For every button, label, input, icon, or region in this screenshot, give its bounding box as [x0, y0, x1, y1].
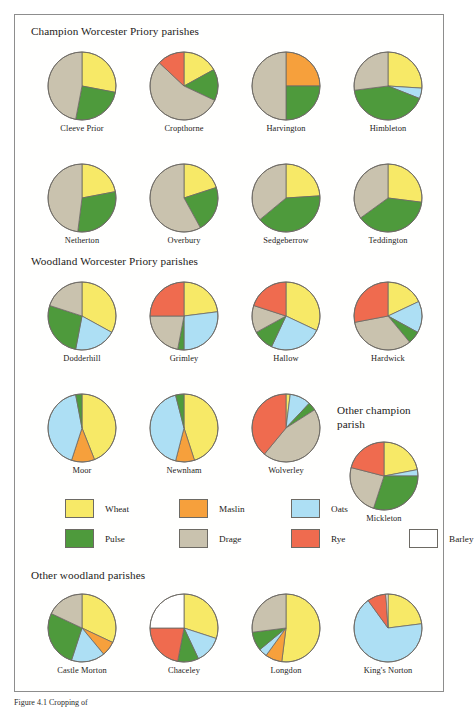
pie-cell-netherton: Netherton: [47, 163, 117, 245]
pie-chart: [251, 163, 321, 233]
pie-slice-wheat: [282, 594, 320, 662]
pie-label: Newnham: [149, 466, 219, 475]
legend-item-barley: Barley: [409, 529, 474, 548]
pie-label: Netherton: [47, 236, 117, 245]
other-champion-title-text: Other champion parish: [337, 404, 411, 430]
pie-chart: [47, 163, 117, 233]
pie-label: Moor: [47, 466, 117, 475]
legend-swatch-maslin: [179, 499, 208, 518]
pie-cell-castle-morton: Castle Morton: [47, 593, 117, 675]
pie-cell-sedgeberrow: Sedgeberrow: [251, 163, 321, 245]
pie-chart: [47, 51, 117, 121]
pie-chart: [353, 163, 423, 233]
pie-label: Chaceley: [149, 666, 219, 675]
pie-label: Overbury: [149, 236, 219, 245]
pie-chart: [149, 163, 219, 233]
section-heading-woodland-priory: Woodland Worcester Priory parishes: [31, 255, 198, 267]
pie-label: Cropthorne: [149, 124, 219, 133]
legend-label-barley: Barley: [449, 534, 474, 544]
pie-label: Cleeve Prior: [47, 124, 117, 133]
pie-cell-chaceley: Chaceley: [149, 593, 219, 675]
pie-label: Wolverley: [251, 466, 321, 475]
pie-slice-maslin: [286, 52, 320, 86]
pie-slice-drage: [252, 52, 286, 120]
pie-slice-drage: [48, 164, 82, 232]
pie-chart: [47, 393, 117, 463]
pie-chart: [251, 393, 321, 463]
pie-label: Himbleton: [353, 124, 423, 133]
pie-slice-wheat: [286, 164, 320, 198]
pie-cell-hardwick: Hardwick: [353, 281, 423, 363]
pie-label: Sedgeberrow: [251, 236, 321, 245]
pie-slice-wheat: [184, 282, 218, 316]
pie-cell-himbleton: Himbleton: [353, 51, 423, 133]
pie-label: Grimley: [149, 354, 219, 363]
legend-label-wheat: Wheat: [105, 504, 129, 514]
pie-slice-drage: [354, 52, 388, 90]
legend-item-maslin: Maslin: [179, 499, 245, 518]
pie-label: Teddington: [353, 236, 423, 245]
pie-slice-wheat: [388, 164, 422, 202]
pie-slice-pulse: [76, 86, 116, 120]
pie-label: Longdon: [251, 666, 321, 675]
legend-item-pulse: Pulse: [65, 529, 125, 548]
pie-slice-wheat: [388, 52, 422, 88]
pie-cell-cropthorne: Cropthorne: [149, 51, 219, 133]
legend-label-pulse: Pulse: [105, 534, 125, 544]
pie-chart: [149, 281, 219, 351]
section-heading-other-champion: Other champion parish: [337, 403, 437, 431]
pie-cell-newnham: Newnham: [149, 393, 219, 475]
pie-chart: [251, 281, 321, 351]
pie-cell-hallow: Hallow: [251, 281, 321, 363]
legend-swatch-barley: [409, 529, 438, 548]
figure-frame: Champion Worcester Priory parishes Woodl…: [14, 14, 444, 692]
pie-chart: [149, 593, 219, 663]
pie-slice-drage: [48, 52, 82, 119]
pie-cell-dodderhill: Dodderhill: [47, 281, 117, 363]
pie-slice-pulse: [78, 192, 116, 232]
pie-slice-oats: [184, 312, 218, 350]
pie-cell-overbury: Overbury: [149, 163, 219, 245]
pie-slice-rye: [150, 628, 184, 661]
pie-chart: [251, 51, 321, 121]
pie-cell-longdon: Longdon: [251, 593, 321, 675]
pie-chart: [353, 51, 423, 121]
pie-cell-teddington: Teddington: [353, 163, 423, 245]
pie-cell-moor: Moor: [47, 393, 117, 475]
legend-item-oats: Oats: [291, 499, 348, 518]
legend-item-wheat: Wheat: [65, 499, 129, 518]
pie-label: Hardwick: [353, 354, 423, 363]
pie-slice-pulse: [286, 86, 320, 120]
legend-item-rye: Rye: [291, 529, 345, 548]
pie-cell-king-s-norton: King's Norton: [353, 593, 423, 675]
pie-cell-harvington: Harvington: [251, 51, 321, 133]
pie-chart: [251, 593, 321, 663]
pie-label: Dodderhill: [47, 354, 117, 363]
pie-slice-rye: [354, 282, 388, 322]
pie-slice-drage: [252, 594, 286, 632]
legend-label-drage: Drage: [219, 534, 241, 544]
pie-cell-wolverley: Wolverley: [251, 393, 321, 475]
pie-chart: [353, 593, 423, 663]
pie-slice-barley: [150, 594, 184, 628]
legend-swatch-pulse: [65, 529, 94, 548]
legend-swatch-wheat: [65, 499, 94, 518]
pie-label: King's Norton: [353, 666, 423, 675]
pie-label: Castle Morton: [47, 666, 117, 675]
legend-label-rye: Rye: [331, 534, 345, 544]
legend-label-maslin: Maslin: [219, 504, 245, 514]
pie-slice-wheat: [82, 52, 116, 92]
pie-label: Hallow: [251, 354, 321, 363]
section-heading-champion-priory: Champion Worcester Priory parishes: [31, 25, 199, 37]
pie-label: Harvington: [251, 124, 321, 133]
legend-swatch-oats: [291, 499, 320, 518]
pie-slice-rye: [150, 282, 184, 316]
legend: WheatMaslinOatsPulseDrageRyeBarley: [39, 499, 435, 573]
legend-swatch-drage: [179, 529, 208, 548]
pie-slice-wheat: [388, 594, 422, 628]
pie-chart: [353, 281, 423, 351]
pie-chart: [149, 393, 219, 463]
pie-cell-cleeve-prior: Cleeve Prior: [47, 51, 117, 133]
legend-item-drage: Drage: [179, 529, 241, 548]
pie-chart: [47, 593, 117, 663]
